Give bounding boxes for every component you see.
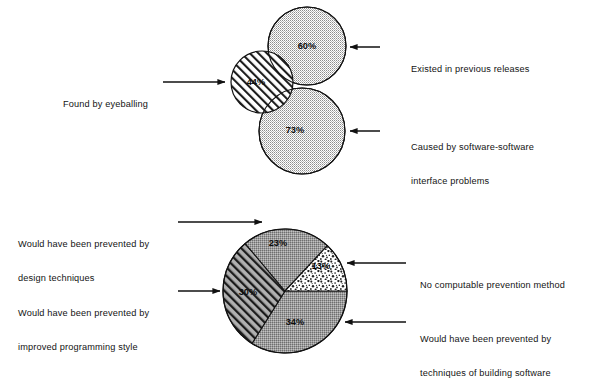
callout-improved-programming-style-line-2: improved programming style bbox=[18, 342, 149, 353]
pie-percent-no-computable-prevention: 13% bbox=[312, 261, 331, 271]
callout-interface-problems: Caused by software-software interface pr… bbox=[411, 119, 534, 210]
callout-existed-previous: Existed in previous releases bbox=[411, 41, 530, 98]
pie-percent-techniques-building-software: 34% bbox=[286, 317, 305, 327]
venn-percent-found-eyeballing: 44% bbox=[247, 77, 266, 87]
pie-chart: 23% 13% 30% 34% bbox=[178, 222, 406, 353]
callout-improved-programming-style: Would have been prevented by improved pr… bbox=[18, 285, 149, 376]
venn-percent-existed-previous: 60% bbox=[298, 41, 317, 51]
callout-no-computable-prevention-line-1: No computable prevention method bbox=[420, 280, 565, 291]
callout-interface-problems-line-1: Caused by software-software bbox=[411, 142, 534, 153]
callout-interface-problems-line-2: interface problems bbox=[411, 176, 534, 187]
pie-percent-design-techniques: 23% bbox=[269, 238, 288, 248]
callout-found-eyeballing: Found by eyeballing bbox=[63, 76, 148, 133]
pie-percent-improved-programming-style: 30% bbox=[239, 287, 258, 297]
figure-canvas: 60% 44% 73% 23% 13% 30% 34% bbox=[0, 0, 596, 378]
callout-existed-previous-line-1: Existed in previous releases bbox=[411, 64, 530, 75]
callout-techniques-building-software-line-1: Would have been prevented by bbox=[420, 334, 551, 345]
callout-techniques-building-software: Would have been prevented by techniques … bbox=[420, 311, 551, 378]
callout-improved-programming-style-line-1: Would have been prevented by bbox=[18, 308, 149, 319]
callout-design-techniques-line-2: design techniques bbox=[18, 273, 149, 284]
callout-no-computable-prevention: No computable prevention method bbox=[420, 257, 565, 314]
callout-design-techniques-line-1: Would have been prevented by bbox=[18, 239, 149, 250]
callout-techniques-building-software-line-2: techniques of building software bbox=[420, 368, 551, 378]
venn-percent-interface-problems: 73% bbox=[286, 125, 305, 135]
callout-found-eyeballing-line-1: Found by eyeballing bbox=[63, 99, 148, 110]
venn-diagram: 60% 44% 73% bbox=[163, 7, 380, 174]
